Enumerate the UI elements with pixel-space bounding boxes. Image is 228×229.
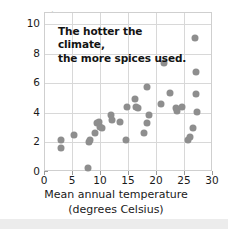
data-point: [144, 83, 151, 90]
x-tick-label: 20: [141, 174, 171, 186]
data-point: [193, 108, 200, 115]
data-point: [71, 131, 78, 138]
x-tick-label: 15: [113, 174, 143, 186]
scatter-plot-figure: Spices per recipe 10 8 6 4 2 0 The hot: [0, 0, 228, 229]
data-point: [187, 134, 194, 141]
data-point: [189, 125, 196, 132]
x-tick-label: 25: [169, 174, 199, 186]
x-axis-ticks: 0 5 10 15 20 25 30: [44, 172, 212, 188]
y-tick-label: 8: [14, 47, 40, 59]
y-tick-label: 2: [14, 135, 40, 147]
bottom-band: [0, 219, 228, 229]
data-point: [57, 145, 64, 152]
x-tick-label: 5: [57, 174, 87, 186]
data-point: [192, 34, 199, 41]
annotation-line-2: the more spices used.: [58, 52, 190, 65]
data-point: [143, 119, 150, 126]
y-tick-label: 4: [14, 106, 40, 118]
data-point: [131, 96, 138, 103]
y-axis-ticks: 10 8 6 4 2 0: [10, 12, 40, 171]
x-axis-label-line-1: Mean annual temperature: [20, 188, 212, 203]
data-point: [140, 130, 147, 137]
gridline-horizontal: [45, 113, 211, 114]
x-axis-label-line-2: (degrees Celsius): [20, 203, 212, 218]
chart-annotation: The hotter the climate, the more spices …: [58, 25, 190, 65]
data-point: [57, 137, 64, 144]
data-point: [122, 137, 129, 144]
data-point: [87, 137, 94, 144]
x-tick-label: 30: [197, 174, 227, 186]
data-point: [146, 111, 153, 118]
y-tick-label: 10: [14, 17, 40, 29]
gridline-horizontal: [45, 83, 211, 84]
x-axis-label: Mean annual temperature (degrees Celsius…: [20, 188, 212, 217]
top-divider: [0, 0, 228, 3]
plot-area: The hotter the climate, the more spices …: [44, 12, 212, 171]
annotation-line-1: The hotter the climate,: [58, 25, 190, 52]
data-point: [157, 100, 164, 107]
x-tick-label: 0: [29, 174, 59, 186]
y-tick-label: 6: [14, 76, 40, 88]
data-point: [91, 129, 98, 136]
data-point: [117, 119, 124, 126]
data-point: [192, 90, 199, 97]
data-point: [99, 125, 106, 132]
data-point: [192, 68, 199, 75]
data-point: [166, 90, 173, 97]
data-point: [109, 116, 116, 123]
data-point: [123, 103, 130, 110]
data-point: [134, 105, 141, 112]
data-point: [84, 164, 91, 171]
data-point: [178, 103, 185, 110]
x-tick-label: 10: [85, 174, 115, 186]
